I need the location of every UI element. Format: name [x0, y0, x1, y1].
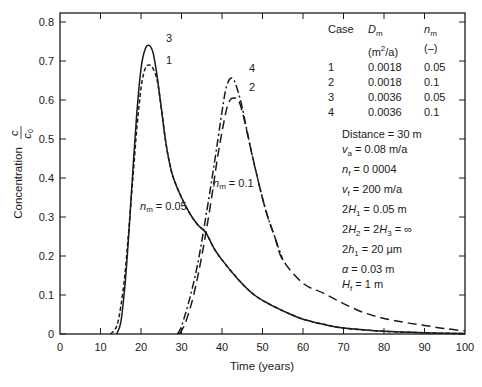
legend-header-dm: Dm: [368, 22, 424, 41]
x-tick-label: 20: [135, 341, 147, 353]
legend-header-nm: nm: [424, 22, 451, 41]
curve-label-2: 2: [249, 81, 255, 93]
legend-row: 4 0.0036 0.1: [328, 105, 451, 120]
y-axis-title-numerator: c: [8, 130, 20, 136]
legend-nm: 0.05: [424, 90, 451, 105]
param-vf: vf = 200 m/a: [342, 182, 422, 202]
y-axis-title-denominator: c0: [21, 129, 34, 139]
param-2small-h1: 2h1 = 20 µm: [342, 242, 422, 262]
param-va: va = 0.08 m/a: [342, 142, 422, 162]
legend-row: 3 0.0036 0.05: [328, 90, 451, 105]
param-alpha: α = 0.03 m: [342, 262, 422, 277]
y-tick-label: 0.7: [39, 55, 54, 67]
x-tick-label: 30: [175, 341, 187, 353]
x-axis-title: Time (years): [230, 360, 294, 372]
x-tick-label: 70: [337, 341, 349, 353]
x-tick-label: 60: [297, 341, 309, 353]
x-tick-label: 10: [94, 341, 106, 353]
x-tick-label: 90: [418, 341, 430, 353]
x-tick-label: 80: [378, 341, 390, 353]
y-tick-label: 0.6: [39, 94, 54, 106]
legend-nm: 0.1: [424, 75, 451, 90]
y-tick-label: 0.1: [39, 289, 54, 301]
y-tick-label: 0.8: [39, 16, 54, 28]
legend-row: 1 0.0018 0.05: [328, 60, 451, 75]
curve-label-1: 1: [166, 54, 172, 66]
legend-dm: 0.0018: [368, 75, 424, 90]
legend-dm: 0.0036: [368, 105, 424, 120]
y-axis-title: Concentration c c0: [8, 126, 34, 219]
legend-dm: 0.0036: [368, 90, 424, 105]
curve-case-2: [180, 98, 466, 334]
y-axis-title-word: Concentration: [12, 147, 24, 219]
legend-nm: 0.05: [424, 60, 451, 75]
x-tick-label: 100: [456, 341, 474, 353]
curve-label-3: 3: [166, 32, 172, 44]
legend-case: 3: [328, 90, 368, 105]
legend-case: 2: [328, 75, 368, 90]
y-tick-label: 0.2: [39, 250, 54, 262]
legend-header-row: Case Dm nm: [328, 22, 451, 41]
y-tick-label: 0.3: [39, 211, 54, 223]
legend-header-case: Case: [328, 22, 368, 41]
x-tick-label: 50: [256, 341, 268, 353]
y-tick-label: 0.5: [39, 133, 54, 145]
legend-unit-dm: (m2/a): [368, 41, 424, 60]
param-hf: Hf = 1 m: [342, 277, 422, 297]
legend-case: 1: [328, 60, 368, 75]
nm-01-label: nm = 0.1: [213, 177, 254, 191]
legend-unit-nm: (–): [424, 41, 451, 60]
curve-label-4: 4: [249, 62, 255, 74]
x-tick-label: 40: [216, 341, 228, 353]
y-tick-label: 0.4: [39, 172, 54, 184]
nm-005-label: nm = 0.05: [140, 200, 187, 214]
legend-row: 2 0.0018 0.1: [328, 75, 451, 90]
param-2h1: 2H1 = 0.05 m: [342, 202, 422, 222]
legend-case: 4: [328, 105, 368, 120]
y-tick-label: 0: [48, 328, 54, 340]
curve-case-4: [177, 78, 282, 334]
param-distance: Distance = 30 m: [342, 127, 422, 142]
param-nf: nf = 0 0004: [342, 162, 422, 182]
case-legend-table: Case Dm nm (m2/a) (–) 1 0.0018 0.05 2 0.…: [328, 22, 451, 120]
x-tick-label: 0: [57, 341, 63, 353]
parameter-list: Distance = 30 m va = 0.08 m/a nf = 0 000…: [342, 127, 422, 296]
param-2h2-2h3: 2H2 = 2H3 = ∞: [342, 222, 422, 242]
legend-units-row: (m2/a) (–): [328, 41, 451, 60]
legend-nm: 0.1: [424, 105, 451, 120]
legend-dm: 0.0018: [368, 60, 424, 75]
